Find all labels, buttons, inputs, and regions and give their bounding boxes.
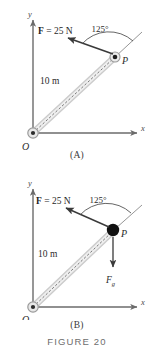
figure-20-container: y x O (0, 0, 154, 354)
rod-a (33, 57, 115, 133)
x-axis-a: x (33, 123, 145, 133)
pivot-origin-a (28, 128, 38, 138)
force-value-b: = 25 N (42, 196, 71, 206)
panel-a: y x O (0, 0, 154, 175)
angle-label-a: 125° (91, 24, 109, 34)
rod-b (33, 231, 113, 307)
pivot-origin-b (28, 302, 38, 312)
rod-extension-b (115, 205, 142, 229)
y-axis-label-b: y (27, 178, 32, 188)
point-p-label-b: P (120, 228, 127, 239)
figure-caption: FIGURE 20 (0, 336, 154, 347)
y-axis-label-a: y (27, 9, 32, 19)
force-label-b: F = 25 N (36, 196, 71, 206)
x-axis-b: x (33, 297, 145, 307)
force-vector-b (66, 208, 109, 227)
y-axis-b: y (27, 178, 33, 307)
point-p-label-a: P (121, 55, 128, 66)
panel-b-caption: (B) (0, 320, 154, 330)
rod-length-label-b: 10 m (38, 249, 58, 259)
panel-b: y x O P (0, 175, 154, 320)
angle-arc-b (80, 203, 131, 215)
weight-subscript-b: g (112, 280, 116, 287)
force-label-a: F = 25 N (38, 26, 73, 36)
force-vector-a (68, 38, 113, 54)
x-axis-label-a: x (140, 123, 145, 133)
y-axis-a: y (27, 9, 33, 133)
rod-length-label-a: 10 m (40, 76, 60, 86)
angle-label-b: 125° (89, 195, 107, 205)
x-axis-label-b: x (140, 297, 145, 307)
force-value-a: = 25 N (44, 26, 73, 36)
panel-a-caption: (A) (0, 150, 154, 160)
weight-label-b: Fg (105, 275, 116, 287)
point-p-b (107, 224, 119, 236)
